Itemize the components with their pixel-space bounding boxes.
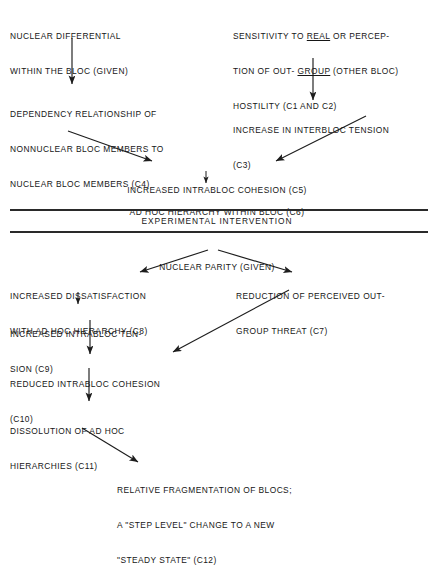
text-fragment: (OTHER BLOC) xyxy=(330,66,398,76)
node-line: NUCLEAR DIFFERENTIAL xyxy=(10,31,128,43)
node-line: TION OF OUT- GROUP (OTHER BLOC) xyxy=(233,66,399,78)
text-fragment: SENSITIVITY TO xyxy=(233,31,307,41)
node-line: INCREASED DISSATISFACTION xyxy=(10,291,148,303)
text-fragment: TION OF OUT- xyxy=(233,66,297,76)
node-ad-hoc-hierarchy-c6: AD HOC HIERARCHY WITHIN BLOC (C6) xyxy=(0,184,434,242)
node-line: REDUCED INTRABLOC COHESION xyxy=(10,379,160,391)
node-line: WITHIN THE BLOC (GIVEN) xyxy=(10,66,128,78)
node-line: INCREASED INTRABLOC TEN- xyxy=(10,329,142,341)
divider-bottom xyxy=(10,231,428,233)
node-line: DEPENDENCY RELATIONSHIP OF xyxy=(10,109,164,121)
node-reduction-outgroup-threat-c7: REDUCTION OF PERCEIVED OUT- GROUP THREAT… xyxy=(236,268,385,361)
node-fragmentation-c12: RELATIVE FRAGMENTATION OF BLOCS; A "STEP… xyxy=(117,462,292,569)
node-dissolution-c11: DISSOLUTION OF AD HOC HIERARCHIES (C11) xyxy=(10,403,125,496)
node-line: DISSOLUTION OF AD HOC xyxy=(10,426,125,438)
node-line: NONNUCLEAR BLOC MEMBERS TO xyxy=(10,144,164,156)
divider-top xyxy=(10,209,428,211)
node-line: REDUCTION OF PERCEIVED OUT- xyxy=(236,291,385,303)
node-line: INCREASE IN INTERBLOC TENSION xyxy=(233,125,389,137)
node-line: GROUP THREAT (C7) xyxy=(236,326,385,338)
underlined-real: REAL xyxy=(307,31,330,41)
node-line: A "STEP LEVEL" CHANGE TO A NEW xyxy=(117,520,292,532)
node-line: "STEADY STATE" (C12) xyxy=(117,555,292,567)
node-line: SENSITIVITY TO REAL OR PERCEP- xyxy=(233,31,399,43)
node-line: HIERARCHIES (C11) xyxy=(10,461,125,473)
node-line: RELATIVE FRAGMENTATION OF BLOCS; xyxy=(117,485,292,497)
text-fragment: OR PERCEP- xyxy=(330,31,389,41)
underlined-group: GROUP xyxy=(297,66,330,76)
band-label-experimental-intervention: EXPERIMENTAL INTERVENTION xyxy=(0,216,434,226)
